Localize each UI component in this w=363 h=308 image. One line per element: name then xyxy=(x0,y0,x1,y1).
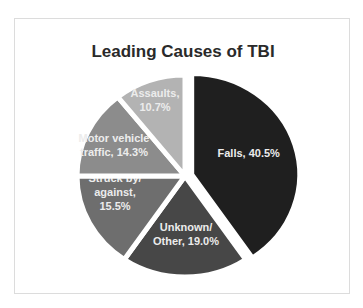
pie-chart: Falls, 40.5%Unknown/Other, 19.0%Struck b… xyxy=(0,0,363,308)
data-label: Falls, 40.5% xyxy=(218,147,281,159)
